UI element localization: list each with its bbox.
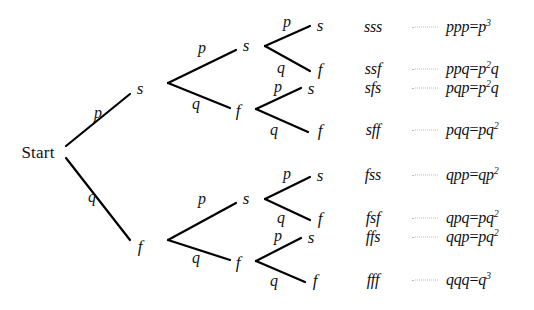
branch-label-e-f1-f2b: q [192,250,200,266]
expr-base-ffs: qqp [446,228,469,245]
expr-result-fff: q [478,271,486,288]
tree-node-f1: f [138,238,143,255]
expr-equals-ssf: = [469,60,478,77]
probability-expression-fss: qpp=qp2 [446,167,499,183]
branch-label-e-s1-s2a: p [198,40,206,56]
branch-label-e-f2b-t7: p [274,228,282,244]
expr-base-fss: qpp [446,166,469,183]
leader-dots-sfs [412,88,438,89]
expr-equals-ffs: = [469,228,478,245]
expr-exponent-fff: 3 [486,270,491,281]
expr-result-sfs: p [478,79,486,96]
outcome-label-sfs: sfs [365,80,381,96]
tree-node-s1: s [137,80,144,97]
branch-label-e-f2b-t8: q [270,273,278,289]
branch-label-e-s2b-t5: p [283,166,291,182]
expr-equals-sss: = [469,18,478,35]
branch-label-e-f2a-t4: q [270,122,278,138]
expr-result-sss: p [478,18,486,35]
branch-line-e-f2a-t4 [256,109,308,132]
leader-dots-fff [412,280,438,281]
leader-dots-fsf [412,218,438,219]
tree-node-t7: s [308,229,315,246]
outcome-label-ffs: ffs [366,229,381,245]
outcome-label-fsf: fsf [366,210,381,226]
expr-equals-sff: = [469,121,478,138]
branch-label-e-s2a-t2: q [277,60,285,76]
outcome-label-sff: sff [366,122,381,138]
branch-line-e-s2b-t6 [265,199,310,220]
tree-node-t2: f [318,61,323,78]
branch-label-e-f1-s2b: p [198,191,206,207]
tree-node-t1: s [317,17,324,34]
expr-result-ffs: pq [478,228,494,245]
expr-base-ssf: ppq [446,60,469,77]
tree-node-f2b: f [236,254,241,271]
branch-label-e-s2a-t1: p [283,14,291,30]
outcome-label-sss: sss [364,19,382,35]
tree-node-t8: f [313,272,318,289]
expr-factor-ssf: q [491,60,499,77]
tree-node-t5: s [317,167,324,184]
tree-node-t6: f [318,210,323,227]
outcome-label-fss: fss [365,167,381,183]
probability-expression-sff: pqq=pq2 [446,122,499,138]
probability-expression-fsf: qpq=pq2 [446,210,499,226]
probability-expression-ssf: ppq=p2q [446,61,499,77]
expr-base-sss: ppp [446,18,469,35]
probability-expression-sfs: pqp=p2q [446,80,499,96]
branch-line-e-f1-s2b [168,203,236,240]
expr-base-fsf: qpq [446,209,469,226]
tree-node-s2a: s [243,37,250,54]
branch-label-e-start-s1: p [94,105,102,121]
expr-equals-fsf: = [469,209,478,226]
expr-equals-fff: = [469,271,478,288]
tree-node-t4: f [318,122,323,139]
branch-label-e-start-f1: q [88,189,96,205]
expr-base-sff: pqq [446,121,469,138]
branch-line-e-s2a-t2 [265,46,310,71]
tree-node-f2a: f [236,102,241,119]
expr-result-ssf: p [478,60,486,77]
expr-factor-sfs: q [491,79,499,96]
outcome-label-fff: fff [367,272,380,288]
expr-exponent-ffs: 2 [494,227,499,238]
expr-equals-sfs: = [469,79,478,96]
leader-dots-fss [412,175,438,176]
outcome-label-ssf: ssf [365,61,381,77]
expr-base-fff: qqq [446,271,469,288]
expr-exponent-sss: 3 [486,17,491,28]
tree-node-start: Start [21,144,54,161]
leader-dots-ffs [412,237,438,238]
expr-exponent-sff: 2 [494,120,499,131]
tree-branches [0,0,534,310]
expr-exponent-fss: 2 [494,165,499,176]
branch-line-e-f2b-t8 [256,261,305,282]
probability-expression-ffs: qqp=pq2 [446,229,499,245]
leader-dots-sff [412,130,438,131]
probability-expression-fff: qqq=q3 [446,272,491,288]
tree-node-t3: s [308,80,315,97]
branch-label-e-s2b-t6: q [277,210,285,226]
branch-label-e-s1-f2a: q [192,96,200,112]
probability-tree-diagram: Startsfsfsfsfsfsfsfpqpqpqpqpqpqpqsssppp=… [0,0,534,310]
leader-dots-sss [412,27,438,28]
expr-base-sfs: pqp [446,79,469,96]
expr-result-sff: pq [478,121,494,138]
leader-dots-ssf [412,69,438,70]
expr-equals-fss: = [469,166,478,183]
tree-node-s2b: s [243,190,250,207]
probability-expression-sss: ppp=p3 [446,19,491,35]
expr-result-fsf: pq [478,209,494,226]
branch-line-e-start-f1 [66,158,130,240]
expr-result-fss: qp [478,166,494,183]
branch-label-e-f2a-t3: p [274,79,282,95]
expr-exponent-fsf: 2 [494,208,499,219]
